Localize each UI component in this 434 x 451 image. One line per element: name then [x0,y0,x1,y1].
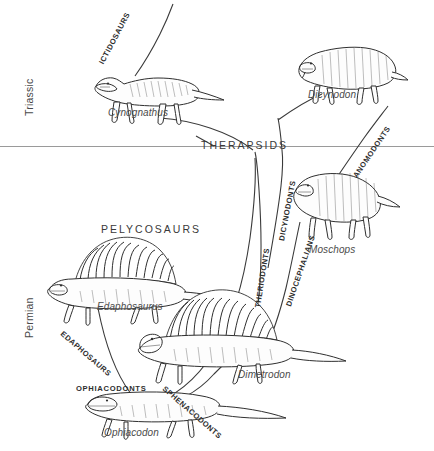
clade-label-ophiacodonts-text: OPHIACODONTS [76,384,146,393]
genus-label-moschops-text: Moschops [309,244,355,255]
clade-label-pelycosaurs-text: PELYCOSAURS [101,223,201,235]
clade-label-therapsids-text: THERAPSIDS [201,139,288,151]
genus-label-edaphosaurus-text: Edaphosaurus [97,301,163,312]
period-label-permian-text: Permian [23,298,35,339]
phylogeny-figure: .stroke { fill:none; stroke:#2f2f2f; str… [0,0,434,451]
period-label-triassic: Triassic [24,79,35,116]
period-label-permian: Permian [24,298,35,339]
genus-label-cynognathus-text: Cynognathus [108,107,168,118]
genus-label-edaphosaurus: Edaphosaurus [97,302,163,312]
genus-label-ophiacodon: Ophiacodon [104,428,159,438]
period-label-triassic-text: Triassic [23,79,35,116]
diagram-artwork: .stroke { fill:none; stroke:#2f2f2f; str… [0,0,434,451]
clade-label-pelycosaurs: PELYCOSAURS [101,224,201,235]
clade-label-therapsids: THERAPSIDS [201,140,288,151]
genus-label-ophiacodon-text: Ophiacodon [104,427,159,438]
genus-label-cynognathus: Cynognathus [108,108,168,118]
genus-label-dicynodon: Dicynodon [308,90,356,100]
clade-label-ophiacodonts: OPHIACODONTS [76,385,146,393]
genus-label-dimetrodon-text: Dimetrodon [238,369,291,380]
genus-label-dimetrodon: Dimetrodon [238,370,291,380]
genus-label-moschops: Moschops [309,245,355,255]
moschops-illustration [294,173,400,239]
genus-label-dicynodon-text: Dicynodon [308,89,356,100]
